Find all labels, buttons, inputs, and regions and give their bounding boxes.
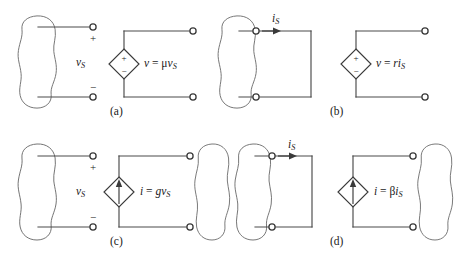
dependent-source-figure: + − + − — [0, 0, 461, 263]
panel-a-source-minus-sign: − — [121, 66, 126, 76]
panel-b-source-plus-sign: + — [353, 53, 358, 63]
panel-b-terminal-top — [253, 28, 259, 34]
panel-a-plus-sign: + — [90, 33, 96, 44]
panel-a-minus-sign: − — [90, 82, 96, 93]
panel-b-current-label: iS — [272, 13, 279, 26]
panel-b-tag: (b) — [330, 106, 343, 118]
panel-b-current-label-sub: S — [275, 17, 279, 26]
panel-c-load-blob — [195, 144, 230, 240]
panel-a-terminal-bottom — [90, 94, 96, 100]
panel-c-graphics — [18, 144, 230, 240]
panel-d-current-label: iS — [288, 139, 295, 152]
panel-a-source-plus-sign: + — [121, 53, 126, 63]
panel-b-current-arrow-head — [273, 28, 281, 35]
panel-c-minus-sign: − — [90, 212, 96, 223]
panel-c-control-variable-sub: S — [81, 190, 85, 199]
panel-d-load-terminal-top — [410, 153, 416, 159]
panel-a-equation: v = μvS — [144, 58, 177, 71]
panel-d-load-terminal-bottom — [410, 224, 416, 230]
panel-c-terminal-bottom — [90, 224, 96, 230]
panel-a-terminal-top — [90, 24, 96, 30]
panel-d-equation: i = βiS — [374, 186, 403, 199]
panel-d-equation-equals: = — [380, 185, 387, 197]
panel-d-tag: (d) — [330, 236, 343, 248]
panel-a-equation-rhs-sub: S — [173, 62, 177, 71]
circuit-drawing-canvas: + − + − — [0, 0, 461, 263]
panel-a-out-terminal-top — [190, 28, 196, 34]
panel-d-network-blob — [235, 144, 272, 240]
panel-b-source-minus-sign: − — [353, 66, 358, 76]
panel-a-control-variable-sub: S — [81, 61, 85, 70]
panel-b-out-terminal-top — [422, 28, 428, 34]
panel-b-equation: v = riS — [376, 58, 405, 71]
panel-b-terminal-bottom — [253, 94, 259, 100]
panel-a-control-variable: vS — [76, 57, 85, 70]
panel-c-terminal-top — [90, 153, 96, 159]
panel-c-equation-equals: = — [146, 185, 153, 197]
panel-b-network-blob — [218, 16, 256, 108]
panel-b-equation-rhs-sub: S — [401, 62, 405, 71]
panel-d-graphics — [235, 144, 453, 240]
panel-d-load-blob — [418, 144, 453, 240]
panel-d-terminal-top — [269, 153, 275, 159]
panel-c-network-blob — [18, 144, 56, 240]
panel-b-out-terminal-bottom — [422, 94, 428, 100]
panel-a-tag: (a) — [110, 106, 123, 118]
panel-c-tag: (c) — [110, 236, 123, 248]
panel-d-terminal-bottom — [269, 224, 275, 230]
panel-c-load-terminal-top — [187, 153, 193, 159]
panel-d-current-label-sub: S — [291, 143, 295, 152]
panel-c-equation-rhs-sub: S — [166, 190, 170, 199]
panel-c-load-terminal-bottom — [187, 224, 193, 230]
panel-a-network-blob — [18, 16, 56, 108]
panel-d-current-arrow-head — [289, 153, 297, 160]
panel-c-equation: i = gvS — [140, 186, 170, 199]
panel-a-out-terminal-bottom — [190, 94, 196, 100]
panel-d-equation-rhs-sub: S — [399, 190, 403, 199]
panel-c-plus-sign: + — [90, 162, 96, 173]
panel-c-control-variable: vS — [76, 186, 85, 199]
